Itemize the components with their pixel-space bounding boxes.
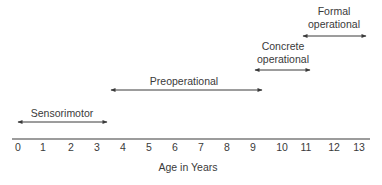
tick-label-2: 2 (68, 141, 74, 153)
tick-label-9: 9 (250, 141, 256, 153)
concrete-operational-label: Concrete operational (257, 40, 309, 66)
tick-label-4: 4 (120, 141, 126, 153)
sensorimotor-label: Sensorimotor (31, 107, 93, 120)
tick-label-6: 6 (172, 141, 178, 153)
formal-operational-label: Formal operational (308, 5, 360, 31)
tick-label-3: 3 (94, 141, 100, 153)
tick-label-5: 5 (146, 141, 152, 153)
tick-label-7: 7 (198, 141, 204, 153)
tick-label-8: 8 (224, 141, 230, 153)
concrete-label-line1: Concrete (257, 40, 309, 53)
preoperational-label: Preoperational (150, 75, 218, 88)
tick-label-11: 11 (301, 141, 312, 153)
tick-label-10: 10 (276, 141, 288, 153)
tick-label-12: 12 (328, 141, 340, 153)
formal-label-line1: Formal (308, 5, 360, 18)
concrete-label-line2: operational (257, 53, 309, 66)
tick-label-0: 0 (15, 141, 21, 153)
tick-label-13: 13 (353, 141, 365, 153)
formal-label-line2: operational (308, 18, 360, 31)
axis-title: Age in Years (159, 161, 218, 174)
tick-label-1: 1 (40, 141, 46, 153)
